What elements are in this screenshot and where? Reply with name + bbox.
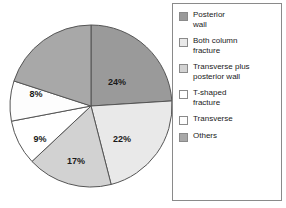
legend-item[interactable]: Others xyxy=(179,131,277,142)
legend-color-swatch xyxy=(179,38,188,47)
pie-chart-plot-area: 24%22%17%9%8% xyxy=(0,0,180,208)
legend-item-label: Posterior wall xyxy=(193,10,225,30)
legend-item[interactable]: Posterior wall xyxy=(179,10,277,30)
pie-slices-group xyxy=(10,25,172,187)
legend-item-label: Transverse xyxy=(193,114,233,124)
pie-chart-figure: 24%22%17%9%8% Posterior wallBoth column … xyxy=(0,0,286,208)
legend-item[interactable]: Transverse plus posterior wall xyxy=(179,62,277,82)
legend-color-swatch xyxy=(179,133,188,142)
legend-item-label: Others xyxy=(193,131,217,141)
legend-item-label: T-shaped fracture xyxy=(193,88,226,108)
chart-legend: Posterior wallBoth column fractureTransv… xyxy=(172,3,282,201)
legend-item-list: Posterior wallBoth column fractureTransv… xyxy=(179,10,277,142)
legend-item[interactable]: T-shaped fracture xyxy=(179,88,277,108)
legend-item[interactable]: Transverse xyxy=(179,114,277,125)
legend-color-swatch xyxy=(179,116,188,125)
pie-slice-percent-label: 24% xyxy=(108,77,126,87)
legend-item-label: Both column fracture xyxy=(193,36,237,56)
pie-slice-percent-label: 17% xyxy=(67,156,85,166)
pie-slice-percent-label: 9% xyxy=(33,134,46,144)
legend-color-swatch xyxy=(179,90,188,99)
legend-color-swatch xyxy=(179,64,188,73)
pie-slice-percent-label: 8% xyxy=(29,89,42,99)
legend-item-label: Transverse plus posterior wall xyxy=(193,62,250,82)
pie-slice-percent-label: 22% xyxy=(113,134,131,144)
legend-item[interactable]: Both column fracture xyxy=(179,36,277,56)
legend-color-swatch xyxy=(179,12,188,21)
pie-slice[interactable] xyxy=(91,25,172,106)
pie-chart-svg: 24%22%17%9%8% xyxy=(0,0,180,208)
